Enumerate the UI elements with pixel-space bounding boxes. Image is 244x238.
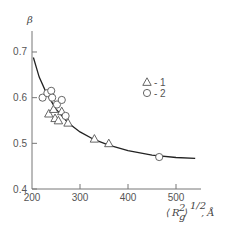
data-point-series-2 bbox=[49, 94, 56, 101]
axes: 0.40.50.60.7200300400500 bbox=[13, 31, 201, 203]
data-point-series-2 bbox=[48, 87, 55, 94]
y-tick-label: 0.5 bbox=[13, 138, 27, 149]
x-tick-label: 200 bbox=[24, 192, 41, 203]
y-tick-label: 0.6 bbox=[13, 92, 27, 103]
x-tick-label: 300 bbox=[72, 192, 89, 203]
data-point-series-2 bbox=[58, 96, 65, 103]
legend-label: - 2 bbox=[154, 88, 166, 99]
y-tick-label: 0.7 bbox=[13, 46, 27, 57]
data-point-series-1 bbox=[105, 139, 113, 147]
points-layer bbox=[39, 87, 163, 160]
legend-marker-triangle bbox=[143, 78, 151, 86]
x-title-open-bracket: ⟨ bbox=[166, 207, 170, 218]
legend-marker-circle bbox=[143, 89, 150, 96]
data-point-series-2 bbox=[62, 112, 69, 119]
x-axis-title: ⟨Rg2⟩1/2, Å bbox=[166, 200, 215, 222]
y-axis-title: β bbox=[26, 14, 33, 25]
legend-label: - 1 bbox=[154, 77, 166, 88]
chart: 0.40.50.60.7200300400500 - 1- 2 β ⟨Rg2⟩1… bbox=[0, 0, 244, 238]
legend: - 1- 2 bbox=[143, 77, 166, 99]
x-tick-label: 400 bbox=[120, 192, 137, 203]
data-point-series-2 bbox=[156, 153, 163, 160]
x-title-unit: , Å bbox=[201, 207, 215, 218]
x-title-close-bracket: ⟩ bbox=[183, 207, 188, 218]
